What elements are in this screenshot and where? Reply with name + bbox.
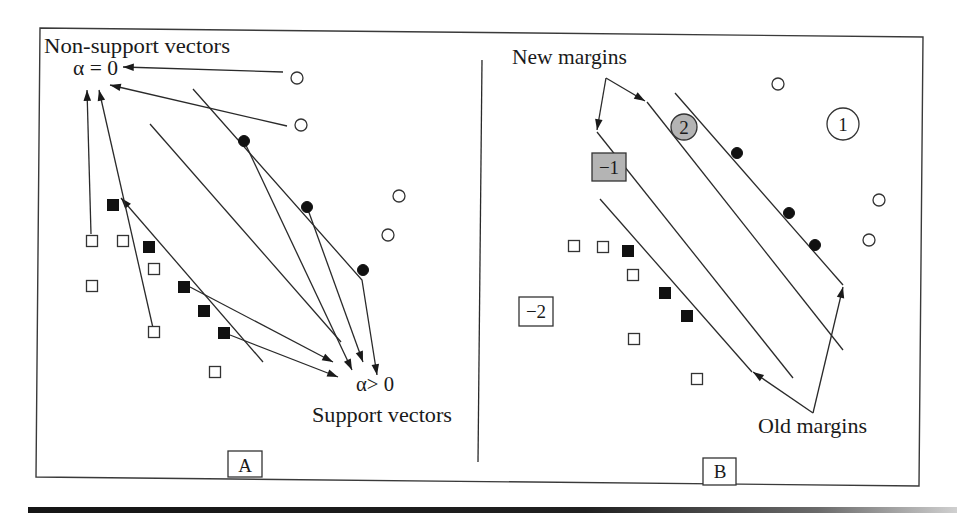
open-square-point xyxy=(87,236,98,247)
arrow-to-alpha-zero xyxy=(87,90,91,234)
old-lower-margin-b xyxy=(600,199,752,372)
badge-minus1: −1 xyxy=(599,157,619,178)
new-margin-pointer xyxy=(606,78,645,101)
filled-square-point xyxy=(179,282,190,293)
filled-square-point xyxy=(623,246,634,257)
filled-circle-point xyxy=(732,148,743,159)
lines-layer xyxy=(150,93,843,378)
hyperplane-a xyxy=(150,124,341,342)
arrow-to-alpha-zero xyxy=(123,67,283,72)
new-upper-margin-b xyxy=(647,102,843,350)
open-circle-point xyxy=(393,190,405,202)
panel-b: New margins Old margins −1 −2 2 1 B xyxy=(512,45,867,485)
badge-1: 1 xyxy=(838,114,848,135)
non-support-vectors-label: Non-support vectors xyxy=(44,34,230,58)
old-margin-pointer xyxy=(813,287,843,413)
panel-divider xyxy=(478,60,482,462)
svm-figure: Non-support vectors α = 0 α> 0 Support v… xyxy=(0,0,957,515)
filled-square-point xyxy=(108,200,119,211)
open-square-point xyxy=(692,374,703,385)
panel-a: Non-support vectors α = 0 α> 0 Support v… xyxy=(44,34,452,477)
open-circle-point xyxy=(291,72,303,84)
new-margins-label: New margins xyxy=(512,45,627,69)
arrows-layer xyxy=(87,67,843,413)
open-square-point xyxy=(149,327,160,338)
open-circle-point xyxy=(863,234,875,246)
open-square-point xyxy=(210,367,221,378)
alpha-zero-label: α = 0 xyxy=(73,56,118,80)
arrow-to-alpha-zero xyxy=(110,85,287,126)
filled-circle-point xyxy=(239,136,250,147)
open-square-point xyxy=(118,236,129,247)
open-square-point xyxy=(569,241,580,252)
new-margin-pointer xyxy=(597,78,606,130)
arrow-to-alpha-positive xyxy=(190,287,333,362)
support-vectors-label: Support vectors xyxy=(312,403,452,427)
arrow-to-alpha-positive xyxy=(307,207,363,362)
old-upper-margin-b xyxy=(675,93,843,285)
points-layer xyxy=(87,72,886,385)
panel-a-label: A xyxy=(238,455,252,476)
badge-minus2: −2 xyxy=(526,301,546,322)
filled-square-point xyxy=(660,288,671,299)
filled-circle-point xyxy=(302,202,313,213)
open-circle-point xyxy=(295,119,307,131)
filled-square-point xyxy=(682,311,693,322)
filled-square-point xyxy=(219,328,230,339)
filled-circle-point xyxy=(358,265,369,276)
filled-circle-point xyxy=(784,208,795,219)
filled-square-point xyxy=(199,306,210,317)
open-square-point xyxy=(149,264,160,275)
arrow-to-alpha-positive xyxy=(244,141,352,370)
open-circle-point xyxy=(873,194,885,206)
panel-b-label: B xyxy=(714,461,727,482)
old-margin-pointer xyxy=(753,372,813,413)
open-circle-point xyxy=(772,78,784,90)
open-square-point xyxy=(629,334,640,345)
badge-2: 2 xyxy=(679,117,689,138)
open-circle-point xyxy=(382,229,394,241)
filled-square-point xyxy=(144,242,155,253)
open-square-point xyxy=(628,270,639,281)
bottom-rule xyxy=(28,507,957,513)
old-margins-label: Old margins xyxy=(758,414,867,438)
open-square-point xyxy=(87,281,98,292)
filled-circle-point xyxy=(810,240,821,251)
open-square-point xyxy=(598,242,609,253)
alpha-positive-label: α> 0 xyxy=(356,372,394,396)
